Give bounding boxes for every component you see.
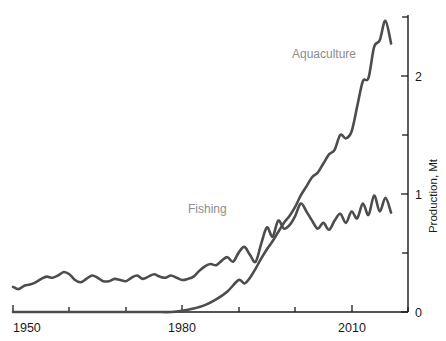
x-tick-label-1950: 1950 <box>13 321 41 335</box>
chart-container: 1950 1980 2010 0 1 2 Production, Mt Aqua… <box>0 0 446 341</box>
line-chart: 1950 1980 2010 0 1 2 Production, Mt Aqua… <box>0 0 446 341</box>
y-tick-label-1: 1 <box>415 188 422 202</box>
y-tick-label-2: 2 <box>415 70 422 84</box>
y-axis-title: Production, Mt <box>427 158 439 233</box>
y-axis-ticks <box>401 17 408 312</box>
x-tick-label-2010: 2010 <box>338 321 366 335</box>
series-label-aquaculture: Aquaculture <box>292 47 356 61</box>
series-label-fishing: Fishing <box>188 202 227 216</box>
y-tick-label-0: 0 <box>415 306 422 320</box>
x-tick-label-1980: 1980 <box>168 321 196 335</box>
